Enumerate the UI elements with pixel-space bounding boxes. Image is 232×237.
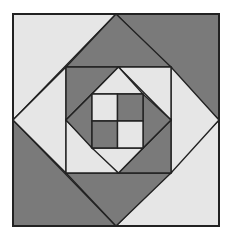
quilt-block-svg (0, 0, 232, 237)
center-quad-top-right (118, 94, 144, 121)
center-quad-bottom-left (92, 121, 118, 148)
quilt-block-diagram (0, 0, 232, 237)
center-quad-top-left (92, 94, 118, 121)
center-quad-bottom-right (118, 121, 144, 148)
